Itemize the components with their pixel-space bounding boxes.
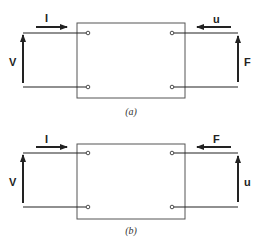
two-port-box — [77, 144, 185, 219]
panel-b: I V F u (b) — [9, 133, 251, 237]
left-flow-label: I — [45, 12, 48, 24]
right-effort-label: u — [244, 176, 251, 188]
terminal-icon — [86, 205, 90, 209]
terminal-icon — [86, 85, 90, 89]
right-flow-label: F — [213, 133, 220, 145]
terminal-icon — [170, 85, 174, 89]
terminal-icon — [86, 151, 90, 155]
caption-a: (a) — [125, 106, 137, 118]
caption-b: (b) — [125, 225, 137, 237]
left-flow-label: I — [45, 133, 48, 145]
two-port-box — [77, 23, 185, 98]
panel-a: I V u F (a) — [9, 12, 251, 118]
left-effort-label: V — [9, 56, 17, 68]
right-flow-label: u — [213, 13, 220, 25]
terminal-icon — [170, 205, 174, 209]
terminal-icon — [170, 31, 174, 35]
left-effort-label: V — [9, 176, 17, 188]
terminal-icon — [170, 151, 174, 155]
terminal-icon — [86, 31, 90, 35]
right-effort-label: F — [244, 56, 251, 68]
two-port-diagram: I V u F (a) I V F u (b) — [0, 0, 262, 237]
